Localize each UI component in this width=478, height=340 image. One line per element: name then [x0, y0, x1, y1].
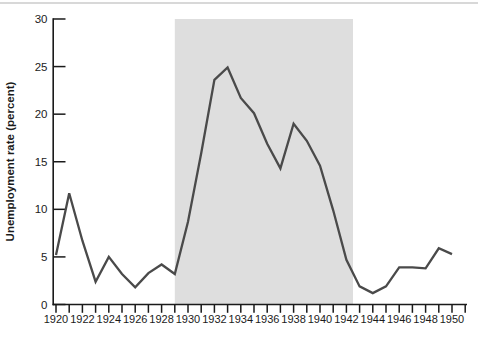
x-tick-label: 1936 [255, 313, 279, 325]
x-tick-label: 1944 [361, 313, 385, 325]
y-tick-label: 5 [41, 251, 47, 263]
chart-page: 051015202530 192019221924192619281930193… [0, 0, 478, 340]
y-tick-label: 20 [35, 108, 48, 120]
y-axis-title: Unemployment rate (percent) [4, 81, 16, 241]
y-tick-label: 10 [35, 203, 48, 215]
x-tick-label: 1934 [229, 313, 253, 325]
x-tick-label: 1924 [97, 313, 121, 325]
y-tick-label: 25 [35, 61, 48, 73]
x-tick-label: 1946 [387, 313, 411, 325]
y-axis-ticks [53, 19, 65, 305]
y-tick-label: 30 [35, 13, 48, 25]
x-tick-label: 1938 [281, 313, 305, 325]
y-tick-label: 0 [41, 299, 47, 311]
x-tick-label: 1920 [44, 313, 68, 325]
x-tick-label: 1922 [70, 313, 94, 325]
x-tick-label: 1928 [149, 313, 173, 325]
unemployment-chart: 051015202530 192019221924192619281930193… [0, 0, 478, 340]
depression-shaded-region [175, 19, 353, 305]
x-tick-label: 1926 [123, 313, 147, 325]
x-axis-tick-labels: 1920192219241926192819301932193419361938… [44, 313, 464, 325]
y-axis-tick-labels: 051015202530 [35, 13, 48, 311]
y-tick-label: 15 [35, 156, 48, 168]
x-tick-label: 1940 [308, 313, 332, 325]
x-tick-label: 1930 [176, 313, 200, 325]
top-divider [0, 2, 478, 4]
x-tick-label: 1948 [413, 313, 437, 325]
x-tick-label: 1932 [202, 313, 226, 325]
x-tick-label: 1950 [440, 313, 464, 325]
x-tick-label: 1942 [334, 313, 358, 325]
